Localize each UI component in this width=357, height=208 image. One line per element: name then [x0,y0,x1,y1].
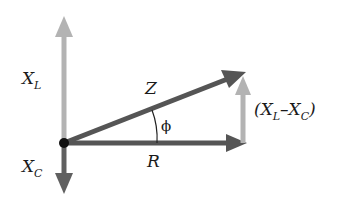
xc-label: XC [22,158,43,175]
xl-arrow [55,16,73,143]
xc-arrow [55,143,73,194]
xl-minus-xc-label: (XL–XC) [254,101,316,118]
phi-angle-arc [152,110,157,143]
xl-minus-xc-arrow [235,76,251,143]
phi-label: ϕ [161,119,171,134]
origin-dot [59,138,69,148]
r-arrow [64,134,247,152]
z-label: Z [145,80,157,97]
r-label: R [147,153,160,170]
phasor-diagram: XL XC Z R ϕ (XL–XC) [0,0,357,208]
xl-label: XL [22,70,41,87]
